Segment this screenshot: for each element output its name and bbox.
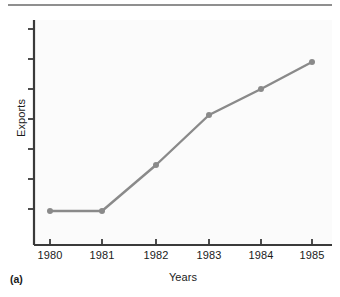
x-axis-tick-label: 1984 [238, 249, 284, 261]
x-axis-tick-label: 1981 [79, 249, 125, 261]
y-axis-title: Exports [15, 83, 27, 153]
x-axis-tick-labels: 1980 1981 1982 1983 1984 1985 [0, 249, 340, 265]
data-point-marker[interactable] [153, 162, 159, 168]
x-axis-tick-label: 1985 [289, 249, 335, 261]
x-axis-tick-label: 1982 [133, 249, 179, 261]
panel-caption: (a) [10, 273, 23, 285]
data-point-marker[interactable] [309, 59, 315, 65]
data-series-line [50, 62, 312, 211]
x-axis-tick-label: 1983 [186, 249, 232, 261]
data-point-marker[interactable] [47, 208, 53, 214]
x-axis-title: Years [34, 271, 332, 283]
x-axis-tick-label: 1980 [27, 249, 73, 261]
data-point-marker[interactable] [206, 112, 212, 118]
data-point-marker[interactable] [258, 86, 264, 92]
figure-panel: Exports 1980 1981 1982 1983 1984 1985 Ye… [0, 0, 340, 297]
data-point-marker[interactable] [99, 208, 105, 214]
